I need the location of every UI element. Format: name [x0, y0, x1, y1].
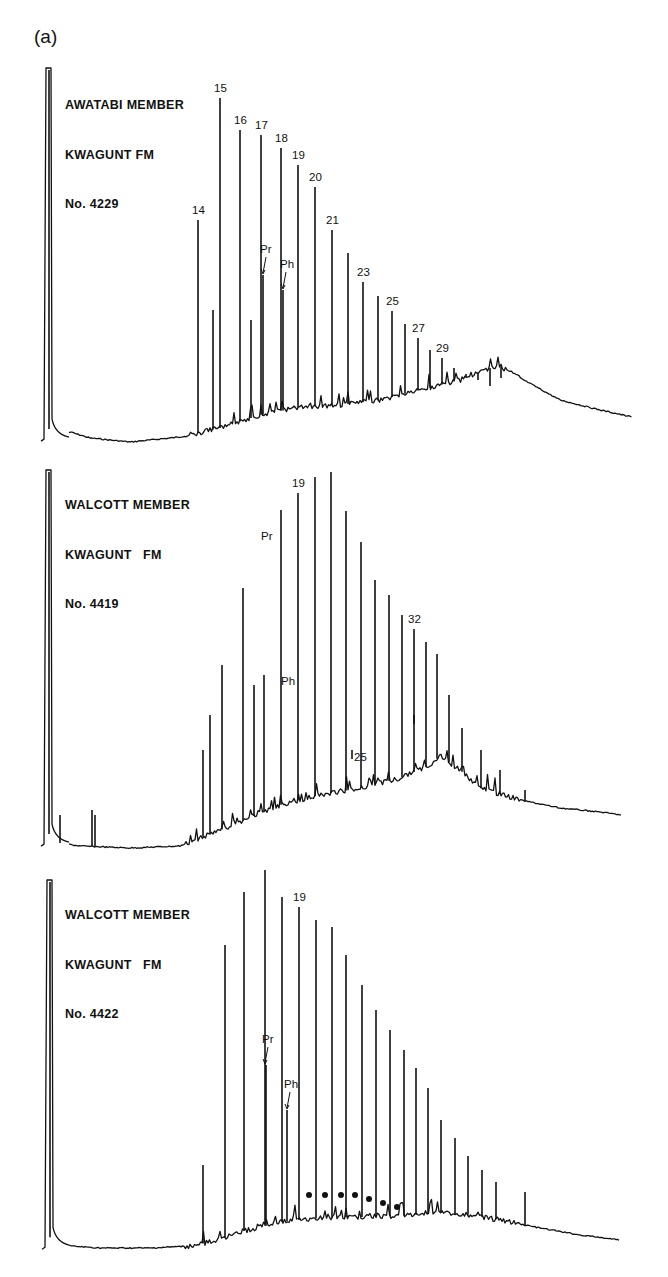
peak-label-c18: 18 — [275, 132, 288, 144]
peak-label-pr: Pr — [261, 530, 273, 542]
peak-label-ph: Ph — [281, 675, 295, 687]
marker-dot — [380, 1200, 386, 1206]
peak-label-c32: 32 — [408, 613, 421, 625]
peak-label-c17: 17 — [255, 119, 268, 131]
peak-label-c14: 14 — [192, 204, 205, 216]
chromatogram-panel-4422: WALCOTT MEMBER KWAGUNT FM No. 4422 PrPh1… — [0, 870, 668, 1270]
peak-label-ph: Ph — [284, 1078, 298, 1090]
solvent-peak — [42, 880, 70, 1249]
peak-label-c20: 20 — [309, 171, 322, 183]
marker-dot — [352, 1192, 358, 1198]
peak-label-c19: 19 — [293, 891, 306, 903]
peak-label-c19: 19 — [292, 149, 305, 161]
peak-label-c15: 15 — [214, 82, 227, 94]
baseline-hump — [70, 1200, 619, 1249]
marker-dot — [338, 1192, 344, 1198]
peak-label-c16: 16 — [234, 114, 247, 126]
peak-label-c21: 21 — [326, 214, 339, 226]
chromatogram-trace: PrPh19 — [0, 870, 668, 1270]
marker-dot — [394, 1204, 400, 1210]
peak-label-c25: 25 — [386, 295, 399, 307]
marker-dot — [322, 1192, 328, 1198]
chromatogram-panel-4229: AWATABI MEMBER KWAGUNT FM No. 4229 14151… — [0, 60, 668, 450]
chromatogram-trace: 14151617Pr18Ph19202123252729 — [0, 60, 668, 450]
peak-label-c29: 29 — [436, 342, 449, 354]
peak-label-pr: Pr — [260, 243, 272, 255]
peak-label-ph: Ph — [280, 258, 294, 270]
peak-label-c27: 27 — [412, 322, 425, 334]
solvent-peak — [41, 68, 69, 441]
chromatogram-panel-4419: WALCOTT MEMBER KWAGUNT FM No. 4419 PrPh1… — [0, 460, 668, 860]
peak-label-pr: Pr — [262, 1033, 274, 1045]
figure-label: (a) — [34, 26, 57, 48]
peak-label-c23: 23 — [357, 266, 370, 278]
peak-label-c19: 19 — [292, 477, 305, 489]
marker-dot — [306, 1192, 312, 1198]
baseline-hump — [69, 751, 621, 849]
baseline-hump — [69, 357, 632, 442]
chromatogram-trace: PrPh192532 — [0, 460, 668, 860]
peak-label-c25: 25 — [354, 751, 367, 763]
marker-dot — [366, 1196, 372, 1202]
solvent-peak — [41, 470, 69, 846]
